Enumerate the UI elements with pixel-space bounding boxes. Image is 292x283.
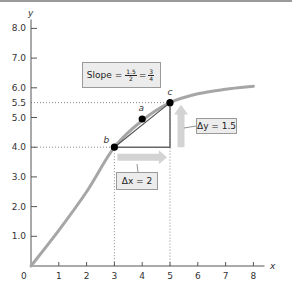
delta-y-arrow (174, 105, 188, 148)
slope-annotation: Slope = 1.5 2 = 3 4 (82, 62, 161, 88)
y-tick-label: 2.0 (12, 202, 27, 212)
point-label-c: c (168, 87, 173, 97)
delta-x-arrow (117, 150, 167, 164)
x-tick-label: 2 (84, 271, 90, 281)
point-label-b: b (104, 135, 110, 145)
x-tick-label: 7 (223, 271, 229, 281)
point-b (111, 144, 118, 151)
y-tick-label: 8.0 (12, 23, 27, 33)
x-axis-label: x (269, 261, 276, 271)
origin-label: 0 (21, 271, 27, 281)
delta-y-annotation: Δy = 1.5 (196, 118, 237, 134)
slope-equals: = (139, 70, 147, 80)
delta-y-leader (184, 126, 196, 128)
point-a (139, 115, 146, 122)
y-tick-label: 7.0 (12, 53, 27, 63)
slope-fraction-2: 3 4 (148, 69, 154, 82)
slope-fraction-1: 1.5 2 (125, 69, 137, 82)
y-tick-label: 4.0 (12, 142, 27, 152)
x-tick-label: 8 (251, 271, 257, 281)
x-tick-label: 1 (56, 271, 62, 281)
x-tick-label: 4 (139, 271, 145, 281)
y-tick-label: 5.5 (12, 98, 26, 108)
delta-x-annotation: Δx = 2 (116, 172, 158, 190)
x-tick-label: 3 (112, 271, 118, 281)
delta-x-leader (137, 164, 138, 172)
x-tick-label: 5 (167, 271, 173, 281)
y-tick-label: 5.0 (12, 113, 27, 123)
chart-canvas: xy0123456781.02.03.04.05.05.56.07.08.0ab… (0, 0, 292, 283)
slope-prefix: Slope = (87, 70, 122, 80)
y-axis-label: y (27, 8, 34, 18)
y-tick-label: 6.0 (12, 83, 27, 93)
y-tick-label: 1.0 (12, 231, 27, 241)
y-tick-label: 3.0 (12, 172, 27, 182)
point-c (166, 99, 173, 106)
point-label-a: a (138, 103, 144, 113)
x-tick-label: 6 (195, 271, 201, 281)
